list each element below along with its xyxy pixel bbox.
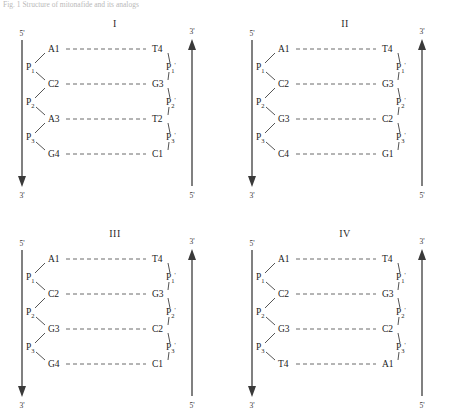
left-strand-3prime-label: 3' bbox=[19, 191, 25, 200]
left-strand-backbone bbox=[248, 250, 256, 397]
right-strand-5prime-label: 5' bbox=[419, 401, 425, 410]
right-strand-backbone bbox=[418, 39, 426, 186]
panel-III-diagram: 5'3'3'5'A1T4C2G3G3C2G4C1P1P1'P2P2'P3P3' bbox=[0, 210, 230, 420]
base-label-right: G3 bbox=[382, 79, 394, 89]
left-strand-3prime-label: 3' bbox=[249, 191, 255, 200]
base-label-right: T4 bbox=[382, 44, 393, 54]
left-strand-5prime-label: 5' bbox=[19, 239, 25, 248]
base-label-left: G4 bbox=[48, 149, 60, 159]
phosphate-label-left: P2 bbox=[26, 97, 35, 109]
base-label-right: G3 bbox=[152, 79, 164, 89]
right-strand-backbone bbox=[418, 249, 426, 396]
base-label-right: C2 bbox=[382, 324, 393, 334]
backbone-bond-left bbox=[266, 142, 275, 150]
panel-II: II 5'3'3'5'A1T4C2G3G3C2C4G1P1P1'P2P2'P3P… bbox=[230, 0, 460, 210]
backbone-bond-right bbox=[168, 317, 169, 325]
backbone-bond-right bbox=[398, 107, 399, 115]
phosphate-label-left: P1 bbox=[256, 272, 265, 284]
phosphate-label-left: P2 bbox=[26, 307, 35, 319]
base-label-left: A3 bbox=[48, 114, 60, 124]
base-label-left: G4 bbox=[48, 359, 60, 369]
backbone-bond-right bbox=[168, 142, 169, 150]
phosphate-label-right: P3' bbox=[396, 131, 406, 143]
phosphate-label-left: P3 bbox=[256, 132, 265, 144]
backbone-bond-left bbox=[36, 142, 45, 150]
panel-III: III 5'3'3'5'A1T4C2G3G3C2G4C1P1P1'P2P2'P3… bbox=[0, 210, 230, 420]
base-label-right: C1 bbox=[152, 359, 163, 369]
right-strand-3prime-label: 3' bbox=[419, 237, 425, 246]
backbone-bond-left bbox=[35, 53, 45, 63]
base-label-left: T4 bbox=[278, 359, 289, 369]
phosphate-label-left: P2 bbox=[256, 97, 265, 109]
panel-I: I 5'3'3'5'A1T4C2G3A3T2G4C1P1P1'P2P2'P3P3… bbox=[0, 0, 230, 210]
base-label-left: G3 bbox=[48, 324, 60, 334]
backbone-bond-right bbox=[398, 282, 399, 290]
right-strand-backbone bbox=[188, 249, 196, 396]
backbone-bond-left bbox=[265, 88, 275, 98]
backbone-bond-left bbox=[265, 333, 275, 343]
base-label-right: G1 bbox=[382, 149, 394, 159]
backbone-bond-left bbox=[266, 282, 275, 290]
backbone-bond-right bbox=[168, 282, 169, 290]
right-strand-5prime-label: 5' bbox=[189, 401, 195, 410]
right-strand-3prime-label: 3' bbox=[189, 237, 195, 246]
backbone-bond-left bbox=[35, 263, 45, 273]
backbone-bond-left bbox=[266, 72, 275, 80]
base-label-left: A1 bbox=[48, 44, 60, 54]
backbone-bond-right bbox=[168, 107, 169, 115]
base-label-left: C2 bbox=[48, 289, 59, 299]
phosphate-label-right: P1' bbox=[396, 61, 406, 73]
backbone-bond-left bbox=[35, 88, 45, 98]
backbone-bond-left bbox=[35, 123, 45, 133]
phosphate-label-right: P2' bbox=[166, 96, 176, 108]
base-label-right: C2 bbox=[382, 114, 393, 124]
left-strand-backbone bbox=[248, 40, 256, 187]
phosphate-label-right: P1' bbox=[166, 61, 176, 73]
base-label-right: C2 bbox=[152, 324, 163, 334]
panel-II-diagram: 5'3'3'5'A1T4C2G3G3C2C4G1P1P1'P2P2'P3P3' bbox=[230, 0, 460, 210]
base-label-left: A1 bbox=[278, 44, 290, 54]
base-label-right: G3 bbox=[382, 289, 394, 299]
right-strand-3prime-label: 3' bbox=[419, 27, 425, 36]
backbone-bond-left bbox=[35, 298, 45, 308]
backbone-bond-left bbox=[266, 317, 275, 325]
right-strand-backbone bbox=[188, 39, 196, 186]
panel-IV-diagram: 5'3'3'5'A1T4C2G3G3C2T4A1P1P1'P2P2'P3P3' bbox=[230, 210, 460, 420]
right-strand-5prime-label: 5' bbox=[419, 191, 425, 200]
left-strand-5prime-label: 5' bbox=[19, 29, 25, 38]
left-strand-backbone bbox=[18, 250, 26, 397]
phosphate-label-right: P3' bbox=[166, 341, 176, 353]
backbone-bond-left bbox=[265, 263, 275, 273]
base-label-left: C2 bbox=[278, 79, 289, 89]
phosphate-label-left: P2 bbox=[256, 307, 265, 319]
right-strand-5prime-label: 5' bbox=[189, 191, 195, 200]
backbone-bond-left bbox=[36, 72, 45, 80]
left-strand-backbone bbox=[18, 40, 26, 187]
backbone-bond-left bbox=[36, 317, 45, 325]
backbone-bond-right bbox=[168, 72, 169, 80]
phosphate-label-right: P1' bbox=[396, 271, 406, 283]
base-label-left: C4 bbox=[278, 149, 289, 159]
base-label-left: C2 bbox=[278, 289, 289, 299]
base-label-left: G3 bbox=[278, 114, 290, 124]
backbone-bond-left bbox=[265, 123, 275, 133]
backbone-bond-right bbox=[398, 352, 399, 360]
base-label-right: A1 bbox=[382, 359, 394, 369]
base-label-left: A1 bbox=[278, 254, 290, 264]
base-label-right: C1 bbox=[152, 149, 163, 159]
phosphate-label-left: P1 bbox=[26, 272, 35, 284]
phosphate-label-left: P1 bbox=[26, 62, 35, 74]
backbone-bond-left bbox=[36, 352, 45, 360]
backbone-bond-left bbox=[265, 53, 275, 63]
backbone-bond-left bbox=[36, 282, 45, 290]
base-label-left: A1 bbox=[48, 254, 60, 264]
base-label-right: T4 bbox=[152, 44, 163, 54]
right-strand-3prime-label: 3' bbox=[189, 27, 195, 36]
phosphate-label-left: P3 bbox=[26, 342, 35, 354]
backbone-bond-left bbox=[35, 333, 45, 343]
backbone-bond-right bbox=[398, 72, 399, 80]
panel-IV: IV 5'3'3'5'A1T4C2G3G3C2T4A1P1P1'P2P2'P3P… bbox=[230, 210, 460, 420]
left-strand-3prime-label: 3' bbox=[249, 401, 255, 410]
backbone-bond-left bbox=[266, 352, 275, 360]
left-strand-5prime-label: 5' bbox=[249, 29, 255, 38]
